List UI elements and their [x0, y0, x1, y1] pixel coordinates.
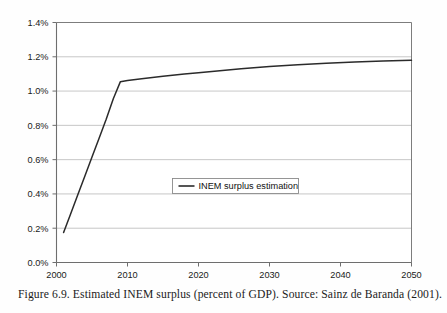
figure-caption: Figure 6.9. Estimated INEM surplus (perc… — [18, 288, 438, 301]
y-tick-label: 1.2% — [28, 52, 49, 62]
y-axis-ticks: 0.0%0.2%0.4%0.6%0.8%1.0%1.2%1.4% — [28, 18, 57, 268]
chart-plot-area: 0.0%0.2%0.4%0.6%0.8%1.0%1.2%1.4%20002010… — [0, 0, 447, 280]
x-tick-label: 2020 — [188, 270, 208, 280]
plot-background — [57, 23, 412, 263]
x-tick-label: 2010 — [117, 270, 137, 280]
y-tick-label: 1.4% — [28, 18, 49, 28]
x-axis-ticks: 200020102020203020402050 — [46, 263, 421, 281]
x-tick-label: 2040 — [330, 270, 350, 280]
y-tick-label: 0.4% — [28, 189, 49, 199]
y-tick-label: 0.6% — [28, 155, 49, 165]
legend-entry-label: INEM surplus estimation — [199, 181, 299, 191]
y-tick-label: 0.0% — [28, 258, 49, 268]
y-tick-label: 0.8% — [28, 121, 49, 131]
x-tick-label: 2000 — [46, 270, 66, 280]
figure-container: 0.0%0.2%0.4%0.6%0.8%1.0%1.2%1.4%20002010… — [0, 0, 447, 313]
line-chart-svg: 0.0%0.2%0.4%0.6%0.8%1.0%1.2%1.4%20002010… — [0, 0, 447, 280]
x-tick-label: 2030 — [259, 270, 279, 280]
x-tick-label: 2050 — [401, 270, 421, 280]
chart-legend[interactable]: INEM surplus estimation — [173, 179, 299, 194]
y-tick-label: 0.2% — [28, 224, 49, 234]
y-tick-label: 1.0% — [28, 86, 49, 96]
